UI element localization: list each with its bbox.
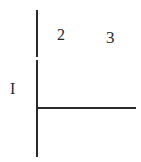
column-label-2: 2 — [57, 27, 65, 43]
horizontal-line — [37, 107, 136, 109]
diagram-canvas: I 2 3 — [0, 0, 141, 162]
column-label-3: 3 — [106, 29, 115, 46]
row-label: I — [10, 81, 15, 97]
vertical-line-upper — [36, 10, 38, 57]
